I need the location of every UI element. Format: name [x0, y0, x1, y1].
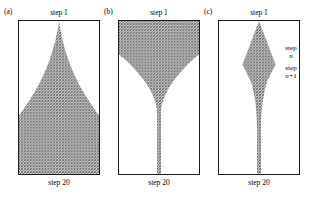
panel-b-frame: [118, 20, 200, 175]
panel-a-shape: [19, 21, 99, 174]
annotation-step-n1-line1: step: [285, 64, 296, 72]
annotation-step-n-line1: step: [285, 44, 296, 52]
panel-c-annotation-step-n-plus-1: step n+1: [274, 64, 308, 80]
panel-b-top-label: step 1: [118, 8, 200, 17]
annotation-step-n1-line2: n+1: [285, 72, 297, 80]
panel-a-bottom-label: step 20: [18, 178, 100, 187]
panel-c-bottom-label: step 20: [218, 178, 300, 187]
panel-a-top-label: step 1: [18, 8, 100, 17]
panel-c-top-label: step 1: [218, 8, 300, 17]
panel-b-shape: [119, 21, 199, 174]
annotation-step-n-line2: n: [289, 52, 293, 60]
panel-a-frame: [18, 20, 100, 175]
panel-b-bottom-label: step 20: [118, 178, 200, 187]
panel-a: (a) step 1 step 20: [18, 20, 100, 175]
panel-c-tag: (c): [204, 7, 212, 16]
panel-b-tag: (b): [104, 7, 113, 16]
panel-c-annotation-step-n: step n: [274, 44, 308, 60]
panel-a-tag: (a): [4, 7, 12, 16]
panel-c: (c) step 1 step n step n+1 step: [218, 20, 300, 175]
panel-b: (b) step 1 step 20: [118, 20, 200, 175]
figure-canvas: (a) step 1 step 20 (b) step 1: [0, 0, 320, 203]
